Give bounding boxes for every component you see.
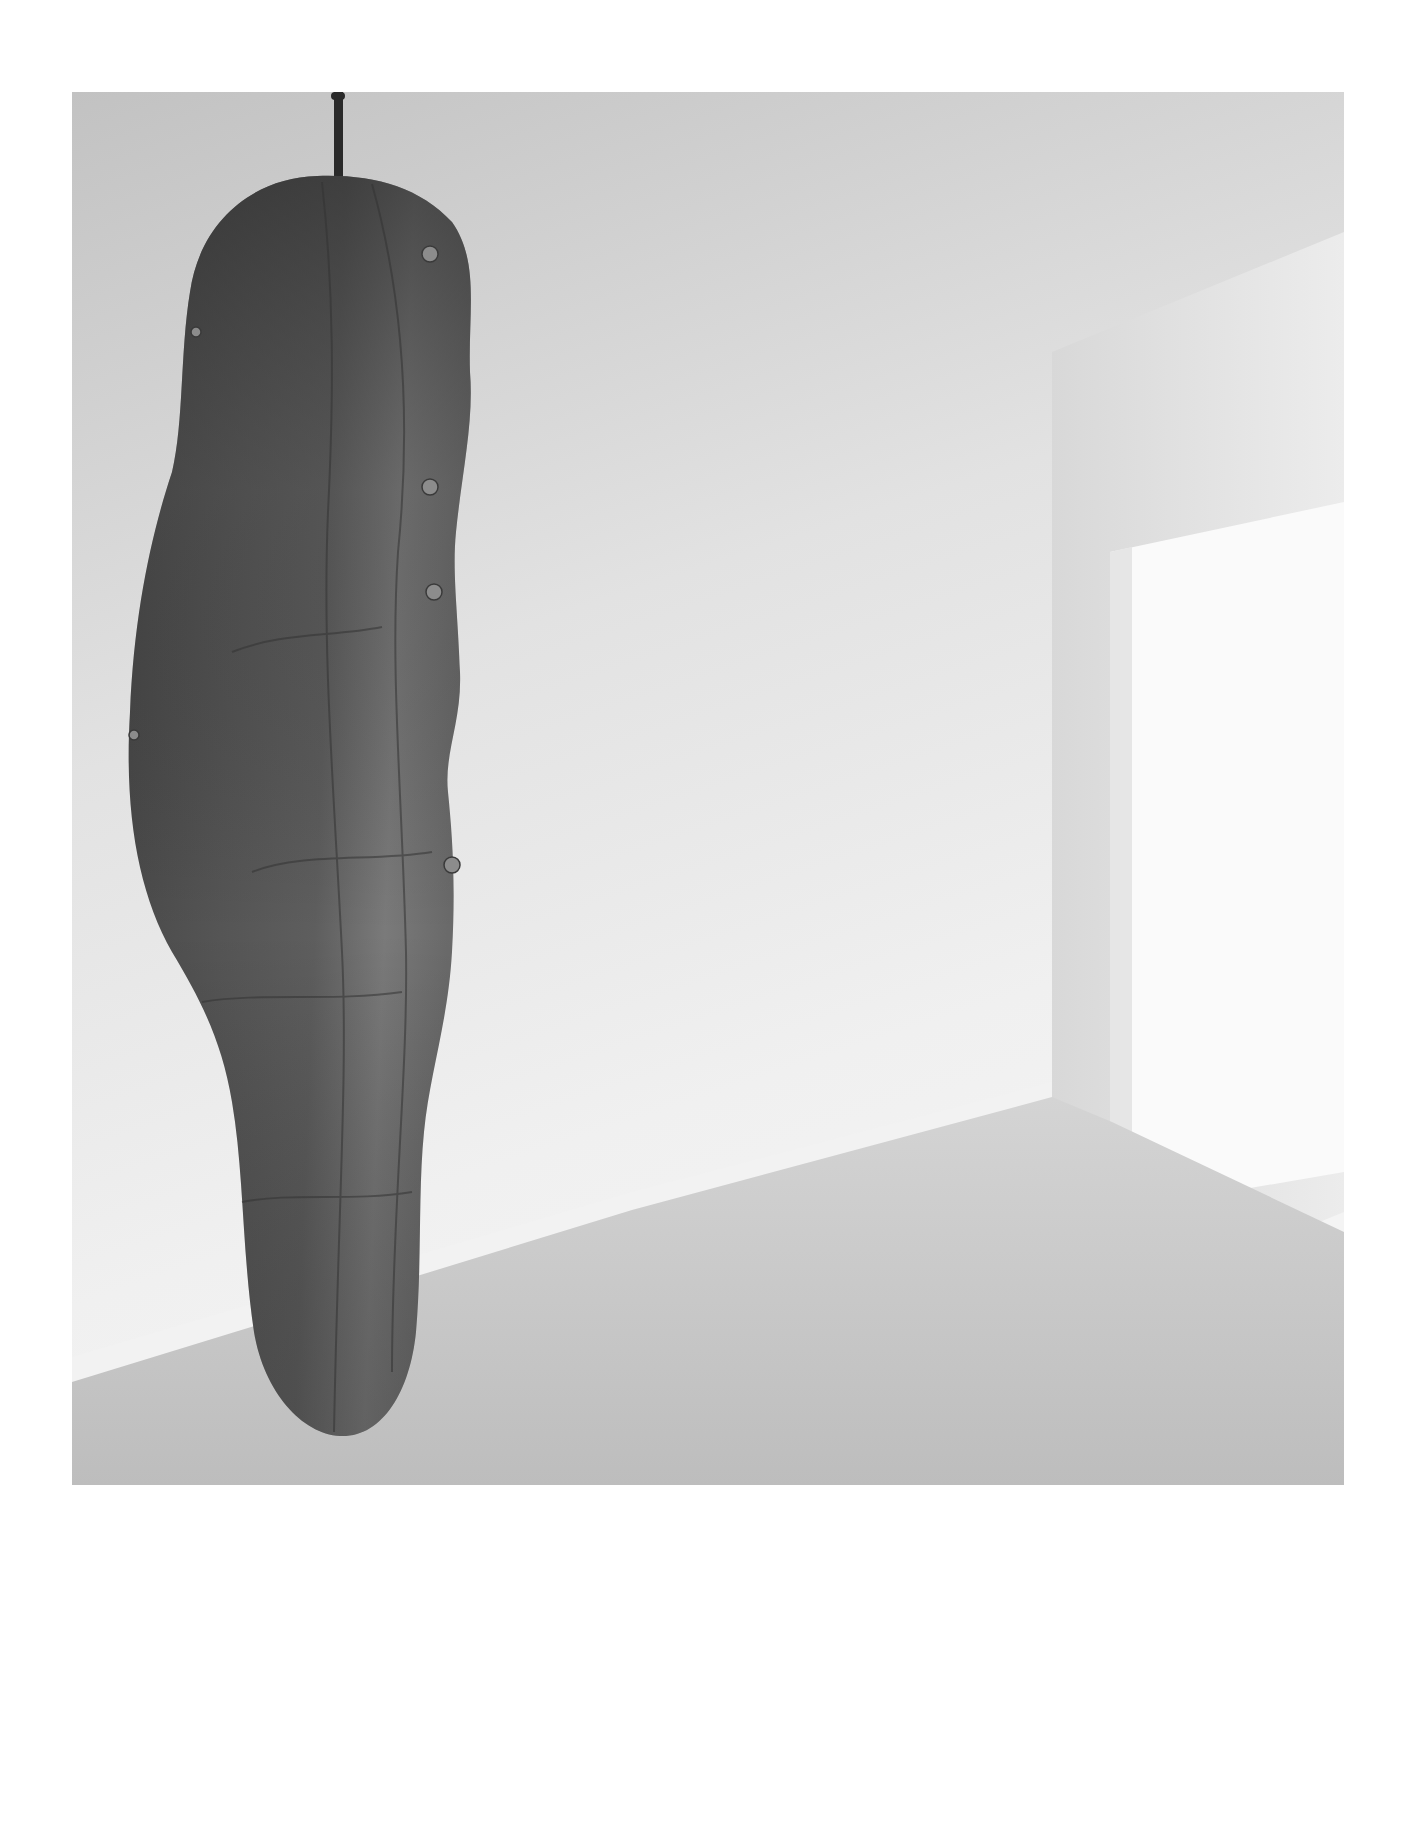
window-light: [1110, 502, 1344, 1212]
window-frame: [1110, 547, 1132, 1212]
gallery-scene: [72, 92, 1344, 1485]
hanging-cable: [334, 92, 343, 178]
cable-clamp: [331, 92, 345, 100]
photograph: [72, 92, 1344, 1485]
